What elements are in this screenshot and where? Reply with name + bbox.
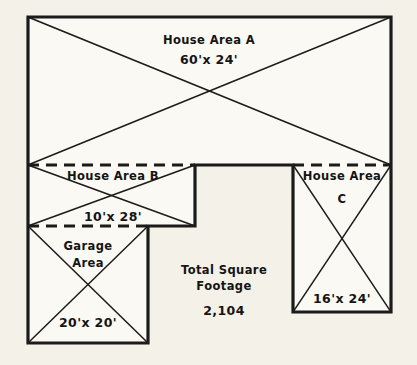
house-c-name: House Area [303, 169, 382, 183]
garage-name-line2: Area [72, 256, 104, 270]
total-footage-title-line2: Footage [196, 279, 251, 293]
house-a-dimensions: 60'x 24' [180, 52, 238, 67]
floor-plan-svg: House Area A 60'x 24' House Area B 10'x … [0, 0, 417, 365]
total-square-footage-group: Total Square Footage 2,104 [181, 263, 267, 318]
house-b-dimensions: 10'x 28' [84, 209, 142, 224]
total-footage-value: 2,104 [203, 303, 245, 318]
garage-name-line1: Garage [63, 239, 112, 253]
house-c-letter: C [338, 192, 347, 206]
house-c-dimensions: 16'x 24' [313, 291, 371, 306]
garage-dimensions: 20'x 20' [59, 315, 117, 330]
floor-plan-diagram: House Area A 60'x 24' House Area B 10'x … [0, 0, 417, 365]
house-b-name: House Area B [67, 169, 159, 183]
house-a-name: House Area A [163, 33, 255, 47]
total-footage-title-line1: Total Square [181, 263, 267, 277]
